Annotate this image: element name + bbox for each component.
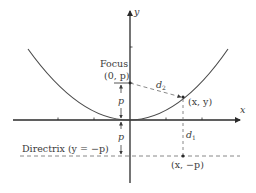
y-axis-label: y — [133, 6, 140, 17]
point-on-parabola — [181, 95, 184, 98]
d2-label: d2 — [156, 79, 166, 91]
p-lower-label: p — [118, 131, 124, 142]
focus-coords-label: (0, p) — [104, 70, 130, 81]
p-upper-label: p — [118, 95, 124, 106]
directrix-point-label: (x, −p) — [171, 159, 204, 170]
d1-label: d1 — [186, 129, 196, 141]
point-label: (x, y) — [188, 96, 212, 107]
x-axis-label: x — [240, 104, 246, 115]
parabola-diagram: y x Focus (0, p) p p d2 d1 (x, y) (x, −p… — [0, 0, 256, 193]
directrix-point — [181, 154, 184, 157]
focus-label: Focus — [100, 58, 128, 69]
directrix-label: Directrix (y = −p) — [22, 143, 109, 154]
